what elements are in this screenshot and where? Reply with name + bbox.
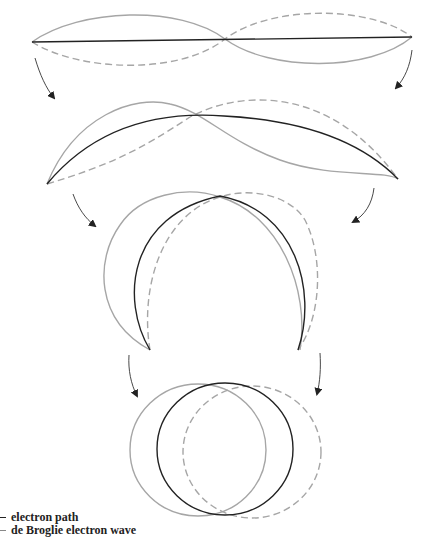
- stage-3-horseshoe: [104, 192, 318, 350]
- arrow-left-3: [129, 355, 137, 396]
- de-broglie-diagram: [0, 0, 422, 538]
- legend-label: de Broglie electron wave: [11, 524, 136, 537]
- stage-2-arc: [47, 100, 398, 184]
- wave-dashed: [183, 386, 321, 518]
- wave-solid: [130, 384, 266, 516]
- legend: electron path de Broglie electron wave: [0, 511, 136, 537]
- gray-line-icon: [0, 530, 6, 531]
- arrow-left-2: [73, 194, 95, 226]
- arrow-right-2: [353, 188, 374, 222]
- stage-4-circle: [130, 383, 321, 518]
- arrow-right-3: [317, 353, 320, 394]
- arrow-right-1: [396, 50, 412, 88]
- wave-solid: [104, 192, 302, 350]
- electron-path: [134, 196, 304, 350]
- legend-item-wave: de Broglie electron wave: [0, 524, 136, 537]
- solid-line-icon: [0, 517, 6, 518]
- stage-1-straight: [32, 13, 412, 65]
- arrow-left-1: [35, 58, 54, 98]
- electron-path: [47, 115, 398, 184]
- electron-path: [157, 383, 293, 515]
